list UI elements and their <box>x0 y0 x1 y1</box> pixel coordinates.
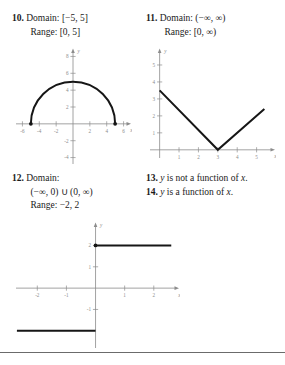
graph-item-12-curve <box>17 244 171 331</box>
answer-item-13: 13. y is not a function of x. <box>146 172 248 186</box>
y-tick-label: 1 <box>153 130 156 136</box>
graph-item-11-tick-labels: 1234512345 <box>153 62 259 160</box>
graph-item-11-axes <box>150 49 275 159</box>
answer-item-12-line-1: 12. Domain: <box>12 172 93 186</box>
answer-item-14-number: 14. <box>146 187 158 197</box>
x-axis-arrow-icon <box>127 122 132 126</box>
graph-item-10-svg: -6-4-2246-4-22468 xy <box>14 48 132 166</box>
answer-item-11-range-value: [0, ∞) <box>194 27 217 37</box>
answer-item-12-domain-label: Domain: <box>26 173 59 183</box>
answer-item-12-domain-value: (−∞, 0) ∪ (0, ∞) <box>30 187 92 197</box>
absolute-value-curve <box>160 90 265 149</box>
y-tick-label: 2 <box>153 113 156 119</box>
y-axis-label: y <box>77 48 81 54</box>
answer-item-10-range-label: Range: <box>30 27 57 37</box>
y-tick-label: 4 <box>153 79 156 85</box>
x-tick-label: -2 <box>54 128 59 134</box>
answer-item-12-range-value: −2, 2 <box>60 200 80 210</box>
x-tick-label: 4 <box>236 154 239 160</box>
graph-item-12-axes <box>16 223 179 349</box>
answer-item-10-domain-label: Domain: <box>26 13 59 23</box>
answer-item-12-line-2: (−∞, 0) ∪ (0, ∞) <box>12 186 93 200</box>
graph-item-10-axes <box>16 49 131 165</box>
x-tick-label: 6 <box>122 128 125 134</box>
y-axis-arrow-icon <box>94 223 98 228</box>
graph-item-11-curve <box>160 90 265 149</box>
answer-item-10-domain-value: [−5, 5] <box>62 13 88 23</box>
answer-item-10-range-value: [0, 5] <box>60 27 81 37</box>
y-tick-label: 8 <box>66 53 69 59</box>
x-tick-label: -6 <box>20 128 25 134</box>
y-tick-label: -1 <box>87 306 92 312</box>
answer-item-11-line-2: Range: [0, ∞) <box>146 26 225 40</box>
answer-item-13-line-1: 13. y is not a function of x. <box>146 172 248 186</box>
x-tick-label: 1 <box>178 154 181 160</box>
x-axis-arrow-icon <box>175 286 180 290</box>
y-axis-arrow-icon <box>71 49 75 54</box>
answer-item-13-text-mid: is not a function of <box>164 173 241 183</box>
answer-item-11-domain-label: Domain: <box>160 13 193 23</box>
answer-item-11-domain-value: (−∞, ∞) <box>195 13 225 23</box>
answer-item-13-text-end: . <box>245 173 247 183</box>
graph-item-10-axis-names: xy <box>77 48 133 133</box>
x-tick-label: 2 <box>152 292 155 298</box>
graph-item-12-axis-names: xy <box>99 222 180 298</box>
graph-item-12-svg: -2-112-112 xy <box>14 222 180 350</box>
y-tick-label: 5 <box>153 62 156 68</box>
answer-item-13-number: 13. <box>146 173 158 183</box>
x-axis-arrow-icon <box>271 148 276 152</box>
y-tick-label: -4 <box>64 154 69 160</box>
y-tick-label: 6 <box>66 70 69 76</box>
y-tick-label: 1 <box>88 264 91 270</box>
footer-horizontal-rule <box>0 352 285 353</box>
x-axis-label: x <box>177 292 180 298</box>
closed-endpoint-dot <box>113 122 117 126</box>
answer-item-11-number: 11. <box>146 13 157 23</box>
answer-item-14-text-mid: is a function of <box>164 187 226 197</box>
graph-item-11-axis-names: xy <box>163 48 276 159</box>
y-axis-arrow-icon <box>158 49 162 54</box>
y-axis-label: y <box>163 48 167 54</box>
x-tick-label: -1 <box>64 292 69 298</box>
answer-item-14-line-1: 14. y is a function of x. <box>146 186 233 200</box>
graph-item-11: 1234512345 xy <box>148 48 276 160</box>
answer-item-14: 14. y is a function of x. <box>146 186 233 200</box>
answer-item-12: 12. Domain: (−∞, 0) ∪ (0, ∞) Range: −2, … <box>12 172 93 213</box>
x-axis-label: x <box>129 127 132 133</box>
y-tick-label: 3 <box>153 96 156 102</box>
x-tick-label: 4 <box>105 128 108 134</box>
y-axis-label: y <box>99 222 103 228</box>
x-tick-label: -4 <box>37 128 42 134</box>
answer-item-12-line-3: Range: −2, 2 <box>12 199 93 213</box>
closed-endpoint-dot <box>94 244 98 248</box>
x-tick-label: 5 <box>255 154 258 160</box>
y-tick-label: 2 <box>66 104 69 110</box>
y-tick-label: 4 <box>66 87 69 93</box>
answer-key-page: 10. Domain: [−5, 5] Range: [0, 5] 11. Do… <box>0 0 285 365</box>
y-tick-label: 2 <box>88 242 91 248</box>
answer-item-11-range-label: Range: <box>164 27 191 37</box>
x-tick-label: -2 <box>35 292 40 298</box>
graph-item-11-svg: 1234512345 xy <box>148 48 276 160</box>
answer-item-10-line-2: Range: [0, 5] <box>12 26 88 40</box>
x-tick-label: 3 <box>217 154 220 160</box>
x-tick-label: 2 <box>197 154 200 160</box>
answer-item-11-line-1: 11. Domain: (−∞, ∞) <box>146 12 225 26</box>
graph-item-12: -2-112-112 xy <box>14 222 180 350</box>
answer-item-12-range-label: Range: <box>30 200 57 210</box>
x-tick-label: 1 <box>123 292 126 298</box>
answer-item-10: 10. Domain: [−5, 5] Range: [0, 5] <box>12 12 88 39</box>
answer-item-10-line-1: 10. Domain: [−5, 5] <box>12 12 88 26</box>
answer-item-12-number: 12. <box>12 173 24 183</box>
answer-item-14-text-end: . <box>231 187 233 197</box>
x-axis-label: x <box>273 153 276 159</box>
x-tick-label: 2 <box>89 128 92 134</box>
answer-item-10-number: 10. <box>12 13 24 23</box>
y-tick-label: -2 <box>64 138 69 144</box>
answer-item-11: 11. Domain: (−∞, ∞) Range: [0, ∞) <box>146 12 225 39</box>
graph-item-10: -6-4-2246-4-22468 xy <box>14 48 132 166</box>
closed-endpoint-dot <box>29 122 33 126</box>
